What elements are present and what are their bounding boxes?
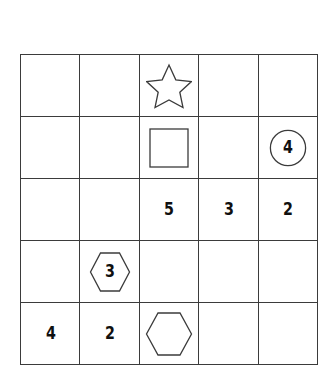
grid-cell-r3c2[interactable] [80,179,139,241]
cell-content [199,241,257,302]
grid-cell-r3c4[interactable]: 3 [199,179,258,241]
grid-cell-r5c5[interactable] [259,303,318,365]
cell-content [259,55,317,116]
grid-cell-r2c3[interactable] [140,117,199,179]
cell-number: 2 [283,201,293,218]
cell-content [80,179,138,240]
cell-content [259,241,317,302]
cell-content: 2 [259,179,317,240]
grid-cell-r5c1[interactable]: 4 [21,303,80,365]
cell-content [140,303,198,364]
cell-content [80,55,138,116]
cell-number: 4 [45,325,55,342]
grid-cell-r1c4[interactable] [199,55,258,117]
grid-cell-r1c2[interactable] [80,55,139,117]
cell-content [199,117,257,178]
cell-number: 2 [105,325,115,342]
grid-cell-r1c5[interactable] [259,55,318,117]
grid-cell-r4c1[interactable] [21,241,80,303]
grid-cell-r1c1[interactable] [21,55,80,117]
grid-cell-r3c1[interactable] [21,179,80,241]
grid-cell-r1c3[interactable] [140,55,199,117]
cell-content: 4 [21,303,79,364]
grid-cell-r4c5[interactable] [259,241,318,303]
cell-content [199,55,257,116]
cell-number: 4 [283,139,293,156]
grid-cell-r5c3[interactable] [140,303,199,365]
grid-cell-r2c2[interactable] [80,117,139,179]
hexagon-shape [145,312,193,356]
cell-content: 3 [80,241,138,302]
grid-cell-r3c3[interactable]: 5 [140,179,199,241]
cell-content [21,117,79,178]
cell-content [21,55,79,116]
grid-cell-r4c2[interactable]: 3 [80,241,139,303]
grid-cell-r4c4[interactable] [199,241,258,303]
cell-content [140,55,198,116]
grid-cell-r5c2[interactable]: 2 [80,303,139,365]
cell-content: 3 [199,179,257,240]
cell-content [80,117,138,178]
cell-content [21,179,79,240]
cell-number: 3 [105,263,115,280]
square-shape [149,128,189,168]
puzzle-grid: 4532342 [20,54,318,365]
cell-content [21,241,79,302]
grid-cell-r2c1[interactable] [21,117,80,179]
cell-content [140,117,198,178]
grid-cell-r4c3[interactable] [140,241,199,303]
cell-content: 4 [259,117,317,178]
grid-cell-r3c5[interactable]: 2 [259,179,318,241]
grid-cell-r2c4[interactable] [199,117,258,179]
cell-number: 5 [164,201,174,218]
cell-content: 5 [140,179,198,240]
star-shape [146,63,192,109]
cell-content [199,303,257,364]
cell-number: 3 [224,201,234,218]
cell-content [140,241,198,302]
grid-cell-r5c4[interactable] [199,303,258,365]
cell-content [259,303,317,364]
grid-cell-r2c5[interactable]: 4 [259,117,318,179]
cell-content: 2 [80,303,138,364]
